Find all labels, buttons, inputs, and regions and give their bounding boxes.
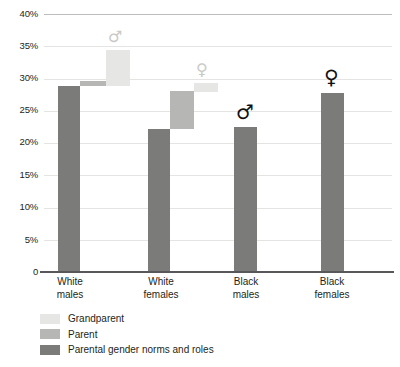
y-tick-label: 5% (0, 234, 38, 245)
bar-black-males-norms (234, 127, 257, 272)
plot-area: ♂ ♀ ♂ ♀ (44, 14, 392, 272)
legend-item-parent: Parent (40, 329, 214, 340)
x-label-black-females: Black females (297, 276, 367, 301)
male-symbol-icon-black-males: ♂ (236, 102, 254, 122)
bar-white-females-parent (170, 91, 194, 129)
x-label-line: males (212, 289, 280, 302)
x-axis-line (40, 271, 394, 273)
gridline-35 (44, 46, 392, 47)
y-tick-label: 20% (0, 136, 38, 147)
x-label-line: females (297, 289, 367, 302)
legend-item-norms: Parental gender norms and roles (40, 344, 214, 355)
legend: Grandparent Parent Parental gender norms… (40, 313, 214, 360)
y-tick-label: 25% (0, 104, 38, 115)
x-label-line: Black (297, 276, 367, 289)
y-tick-label: 15% (0, 169, 38, 180)
legend-swatch-parent (40, 329, 60, 339)
bar-white-females-norms (148, 129, 170, 272)
x-label-line: females (126, 289, 196, 302)
gridline-40 (44, 14, 392, 15)
bar-black-females-norms (321, 93, 344, 272)
x-label-white-females: White females (126, 276, 196, 301)
female-symbol-icon-white-females: ♀ (196, 62, 208, 78)
chart-container: 40% 35% 30% 25% 20% 15% 10% 5% 0 ♂ (0, 0, 400, 367)
y-tick-label: 30% (0, 72, 38, 83)
y-tick-label: 10% (0, 201, 38, 212)
bar-white-males-parent (80, 81, 106, 86)
x-label-line: Black (212, 276, 280, 289)
x-label-black-males: Black males (212, 276, 280, 301)
y-tick-label: 35% (0, 40, 38, 51)
legend-swatch-grandparent (40, 314, 60, 324)
legend-swatch-norms (40, 345, 60, 355)
bar-white-males-norms (58, 86, 80, 272)
legend-item-grandparent: Grandparent (40, 313, 214, 324)
gridline-30 (44, 79, 392, 80)
x-label-white-males: White males (37, 276, 103, 301)
male-symbol-icon-white-males: ♂ (108, 29, 122, 45)
x-label-line: White (126, 276, 196, 289)
y-axis: 40% 35% 30% 25% 20% 15% 10% 5% 0 (0, 14, 38, 272)
legend-label: Grandparent (68, 313, 124, 324)
x-label-line: males (37, 289, 103, 302)
bar-white-males-grandparent (106, 50, 130, 86)
legend-label: Parent (68, 329, 97, 340)
legend-label: Parental gender norms and roles (68, 344, 214, 355)
bar-white-females-grandparent (194, 83, 218, 92)
y-tick-label: 40% (0, 8, 38, 19)
x-label-line: White (37, 276, 103, 289)
female-symbol-icon-black-females: ♀ (324, 67, 339, 87)
x-axis-labels: White males White females Black males Bl… (0, 276, 400, 310)
